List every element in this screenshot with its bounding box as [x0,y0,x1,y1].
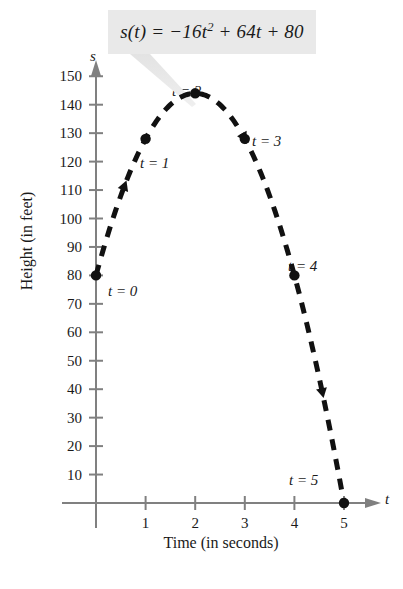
data-point-marker [91,270,101,280]
y-axis-arrowhead [91,60,101,76]
trajectory-curve [96,93,344,503]
data-point-marker [190,88,200,98]
direction-arrowhead [316,387,327,398]
data-point-marker [339,498,349,508]
data-point-marker [289,270,299,280]
callout-leader-line [130,54,196,107]
direction-arrowheads [118,131,327,398]
axes [62,60,381,528]
data-point-marker [240,134,250,144]
x-axis-arrowhead [365,498,381,508]
data-point-markers [91,88,349,508]
plot-canvas [0,0,403,589]
projectile-motion-figure: s(t) = −16t2 + 64t + 80 s t Height (in f… [0,0,403,589]
data-point-marker [140,134,150,144]
